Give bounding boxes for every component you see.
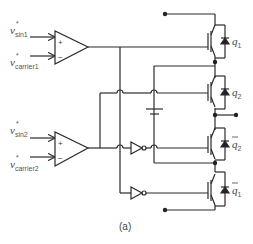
inverter-1 [131,142,208,154]
svg-text:*: * [16,20,19,27]
comparator-2: + − [30,132,117,166]
svg-text:−: − [58,154,63,163]
svg-text:+: + [58,139,63,148]
figure-caption: (a) [119,221,131,232]
label-q2-bar: q2 [232,138,242,152]
circuit-diagram: + − vsin1 * vcarrier1 * + − vsin2 * vcar… [0,0,253,244]
label-vcarrier2: vcarrier2 [10,158,39,172]
igbt-q1 [208,25,229,60]
label-vcarrier1: vcarrier1 [10,56,39,70]
svg-text:+: + [58,38,63,47]
svg-text:*: * [16,120,19,127]
label-q1-bar: q1 [232,184,242,198]
svg-text:*: * [16,154,19,161]
comparator-1: + − [30,31,208,64]
label-q1: q1 [232,35,242,49]
label-vsin1: vsin1 [10,24,28,38]
svg-text:−: − [58,53,63,62]
igbt-q2 [208,76,229,109]
svg-text:*: * [16,52,19,59]
label-q2: q2 [232,86,242,100]
inverter-2 [131,187,208,199]
igbt-q1-bar [208,172,229,208]
igbt-q2-bar [208,128,229,160]
label-vsin2: vsin2 [10,124,28,138]
